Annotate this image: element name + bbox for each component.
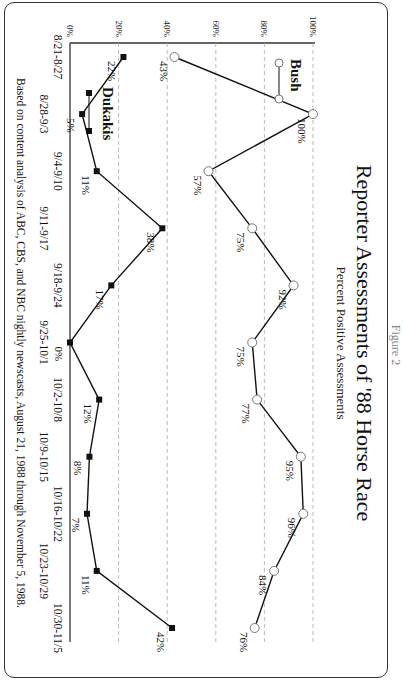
y-tick-label: 100% <box>308 16 318 38</box>
data-label: 42% <box>155 632 167 652</box>
chart-footnote: Based on content analysis of ABC, CBS, a… <box>15 0 27 686</box>
data-label: 17% <box>94 289 106 309</box>
data-label: 77% <box>240 404 252 424</box>
data-point <box>253 395 262 404</box>
data-label: 22% <box>106 61 118 81</box>
series-line-bush <box>174 57 313 628</box>
x-tick-label: 10/16-10/22 <box>52 486 64 542</box>
x-tick-label: 10/23-10/29 <box>38 543 50 599</box>
legend-marker-bush <box>275 95 283 103</box>
y-tick-label: 60% <box>211 21 221 38</box>
data-label: 84% <box>257 575 269 595</box>
data-label: 100% <box>296 118 308 144</box>
data-point <box>94 568 100 574</box>
legend-marker-bush <box>275 59 283 67</box>
data-label: 12% <box>82 404 94 424</box>
data-label: 7% <box>70 518 82 533</box>
data-point <box>299 509 308 518</box>
data-point <box>296 452 305 461</box>
data-label: 8% <box>72 461 84 476</box>
data-label: 43% <box>157 61 169 81</box>
data-point <box>86 454 92 460</box>
data-point <box>289 281 298 290</box>
legend-label-bush: Bush <box>288 59 304 92</box>
series-line-dukakis <box>70 57 172 628</box>
x-tick-label: 8/28-9/3 <box>38 95 50 134</box>
data-point <box>169 625 175 631</box>
x-tick-label: 10/30-11/5 <box>52 603 64 653</box>
data-point <box>94 168 100 174</box>
data-label: 0% <box>53 347 65 362</box>
y-tick-label: 80% <box>259 21 269 38</box>
legend-marker-dukakis <box>86 90 92 96</box>
data-point <box>120 54 126 60</box>
x-tick-label: 10/9-10/15 <box>38 431 50 482</box>
data-point <box>96 397 102 403</box>
y-tick-label: 0% <box>65 25 75 38</box>
y-tick-label: 40% <box>162 21 172 38</box>
data-point <box>204 167 213 176</box>
data-point <box>108 282 114 288</box>
data-point <box>67 340 73 346</box>
data-point <box>309 110 318 119</box>
data-label: 11% <box>80 575 92 595</box>
x-tick-label: 9/4-9/10 <box>52 152 64 191</box>
data-point <box>270 566 279 575</box>
data-label: 38% <box>145 232 157 252</box>
data-label: 11% <box>80 175 92 195</box>
data-point <box>159 225 165 231</box>
data-label: 95% <box>284 461 296 481</box>
data-label: 5% <box>65 118 77 133</box>
data-point <box>250 624 259 633</box>
data-label: 75% <box>235 347 247 367</box>
x-tick-label: 8/21-8/27 <box>52 35 64 80</box>
data-point <box>79 111 85 117</box>
legend-marker-dukakis <box>86 128 92 134</box>
x-tick-label: 9/18-9/24 <box>52 263 64 308</box>
data-point <box>248 338 257 347</box>
data-label: 57% <box>192 175 204 195</box>
y-tick-label: 20% <box>114 21 124 38</box>
x-tick-label: 10/2-10/8 <box>52 377 64 422</box>
data-label: 75% <box>235 232 247 252</box>
data-point <box>84 511 90 517</box>
data-label: 96% <box>286 518 298 538</box>
legend-label-dukakis: Dukakis <box>100 87 116 141</box>
data-label: 92% <box>277 289 289 309</box>
data-point <box>170 53 179 62</box>
x-tick-label: 9/11-9/17 <box>38 206 50 251</box>
data-label: 76% <box>238 632 250 652</box>
data-point <box>248 224 257 233</box>
x-tick-label: 9/25-10/1 <box>38 320 50 365</box>
